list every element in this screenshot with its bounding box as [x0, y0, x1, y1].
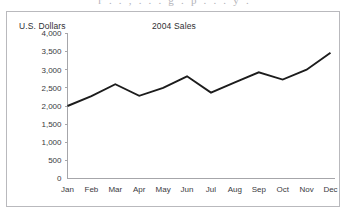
line-chart-plot: 4,0003,5003,0002,5002,0001,5001,0005000 …: [7, 12, 341, 208]
x-axis-tick-label: Feb: [85, 185, 99, 194]
x-axis-tick-label: May: [156, 185, 171, 194]
y-axis-tick-label: 500: [48, 156, 62, 165]
x-axis-tick-label: Sep: [252, 185, 267, 194]
sales-series-line: [68, 53, 331, 106]
y-axis-tick-label: 2,500: [41, 84, 62, 93]
y-axis-tick-label: 1,500: [41, 120, 62, 129]
y-axis-tick-label: 3,000: [41, 66, 62, 75]
x-axis-tick-label: Apr: [133, 185, 146, 194]
y-axis-tick-labels: 4,0003,5003,0002,5002,0001,5001,0005000: [41, 29, 62, 183]
x-axis-tick-label: Mar: [108, 185, 122, 194]
y-axis-tick-label: 4,000: [41, 29, 62, 38]
x-axis-tick-label: Oct: [276, 185, 289, 194]
page-bleed-text: r . . , . . . g . p . . . y .: [0, 0, 349, 6]
x-axis-tick-label: Jul: [206, 185, 216, 194]
x-axis-tick-label: Jan: [61, 185, 74, 194]
x-axis-tick-label: Dec: [323, 185, 337, 194]
x-axis-tick-labels: JanFebMarAprMayJunJulAugSepOctNovDec: [61, 185, 338, 194]
x-axis-tick-label: Nov: [299, 185, 313, 194]
y-axis-tick-label: 3,500: [41, 47, 62, 56]
x-axis-tick-label: Jun: [181, 185, 194, 194]
y-axis-tick-label: 2,000: [41, 102, 62, 111]
x-axis-tick-label: Aug: [228, 185, 242, 194]
chart-container: U.S. Dollars 2004 Sales 4,0003,5003,0002…: [7, 12, 339, 206]
y-axis-tick-label: 1,000: [41, 138, 62, 147]
y-axis-tick-label: 0: [57, 174, 62, 183]
chart-frame: U.S. Dollars 2004 Sales 4,0003,5003,0002…: [6, 11, 340, 207]
